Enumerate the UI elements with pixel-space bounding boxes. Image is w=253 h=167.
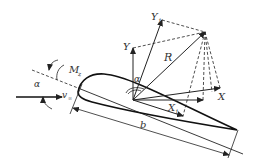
velocity-subscript: ∞ bbox=[68, 95, 72, 101]
velocity-label: v bbox=[62, 90, 67, 100]
alpha-arc-left bbox=[43, 97, 52, 109]
dashed-y1-to-r bbox=[162, 20, 205, 32]
alpha-arc-top-inner bbox=[128, 90, 141, 94]
dashed-y-to-r bbox=[133, 32, 205, 48]
airfoil-profile bbox=[78, 74, 237, 130]
x-force-arrow bbox=[133, 88, 220, 100]
y-label: Y bbox=[123, 41, 131, 52]
alpha-arc-left-top bbox=[49, 60, 58, 70]
moment-subscript: z bbox=[77, 70, 82, 77]
chord-label: b bbox=[140, 119, 146, 130]
x-label: X bbox=[217, 91, 226, 102]
airfoil-diagram: α M z v ∞ Y Y 1 α R X X 1 b bbox=[0, 0, 253, 167]
moment-arc bbox=[57, 65, 64, 80]
alpha-left-label: α bbox=[34, 79, 40, 89]
y1-subscript: 1 bbox=[158, 17, 162, 24]
dashed-r-to-x bbox=[205, 32, 220, 88]
resultant-force-arrow bbox=[133, 32, 205, 100]
x1-subscript: 1 bbox=[175, 108, 179, 115]
trailing-edge-tick bbox=[228, 130, 238, 158]
dashed-r-extra bbox=[205, 32, 212, 92]
alpha-top-label: α bbox=[134, 74, 140, 84]
dashed-r-to-x1 bbox=[183, 32, 205, 116]
resultant-label: R bbox=[163, 51, 172, 64]
